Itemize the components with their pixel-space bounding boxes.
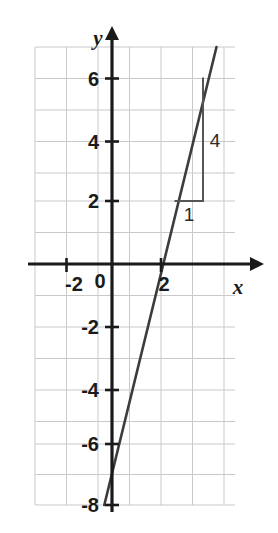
origin-label: 0 [94,270,105,292]
y-tick-label-minus-4: -4 [81,379,100,401]
y-tick-label-minus-8: -8 [81,494,99,516]
axes [28,26,264,512]
y-axis-label: y [90,26,103,50]
coordinate-plane-figure: -2 2 6 4 2 -2 -4 -6 -8 0 y x 1 4 [0,0,278,533]
graph-canvas: -2 2 6 4 2 -2 -4 -6 -8 0 y x 1 4 [0,0,278,533]
x-tick-label-minus-2: -2 [65,273,83,295]
y-tick-label-minus-6: -6 [81,433,99,455]
run-length-label: 1 [184,204,195,225]
y-tick-label-4: 4 [88,131,100,153]
x-axis-label: x [232,275,244,299]
x-axis-arrow-icon [250,257,264,271]
y-axis-arrow-icon [105,26,119,40]
y-tick-label-2: 2 [88,190,99,212]
rise-length-label: 4 [210,130,221,151]
y-tick-label-minus-2: -2 [81,316,99,338]
y-tick-label-6: 6 [88,68,99,90]
x-tick-label-2: 2 [158,273,169,295]
slope-triangle [176,79,204,202]
